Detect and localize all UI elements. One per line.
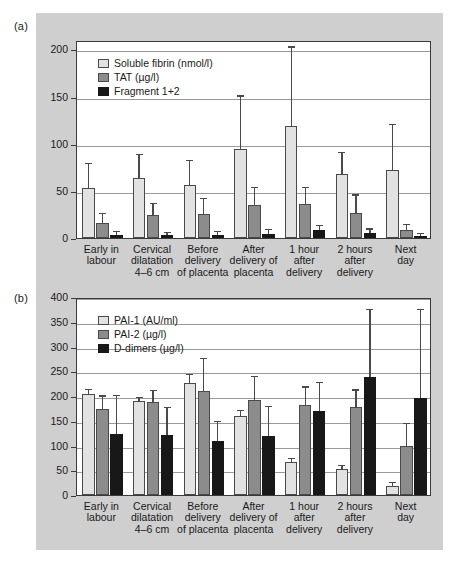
legend-item: TAT (µg/l) (98, 71, 213, 84)
y-axis-tick-label: 100 (30, 139, 68, 149)
bar (198, 391, 211, 495)
bar (184, 185, 197, 238)
legend-a: Soluble fibrin (nmol/l)TAT (µg/l)Fragmen… (98, 57, 213, 99)
bar-group (331, 299, 382, 495)
bar (133, 178, 146, 238)
error-bar-cap (403, 423, 410, 424)
error-bar-cap (99, 213, 106, 214)
error-bar (189, 161, 190, 186)
error-bar-cap (200, 198, 207, 199)
bar (110, 235, 123, 238)
error-bar (138, 155, 139, 178)
error-bar (203, 359, 204, 391)
y-axis-tick-label: 50 (30, 465, 68, 475)
bar (400, 446, 413, 495)
bar (110, 434, 123, 495)
error-bar-cap (136, 154, 143, 155)
error-bar (217, 422, 218, 441)
legend-item: PAI-1 (AU/ml) (98, 314, 184, 327)
bar (212, 235, 225, 238)
legend-label: Soluble fibrin (nmol/l) (114, 58, 213, 69)
bar (336, 469, 349, 495)
error-bar-cap (265, 406, 272, 407)
y-axis-tick (71, 348, 76, 349)
bar (386, 170, 399, 238)
error-bar-cap (352, 389, 359, 390)
bar (96, 223, 109, 238)
error-bar-cap (417, 309, 424, 310)
bar (313, 411, 326, 495)
figure-root: (a) (b) 050100150200 Early inlabourCervi… (0, 0, 469, 569)
bar (350, 213, 363, 238)
error-bar-cap (200, 358, 207, 359)
y-axis-tick-label: 50 (30, 186, 68, 196)
error-bar-cap (113, 395, 120, 396)
y-axis-tick-label: 400 (30, 292, 68, 302)
bar (414, 398, 427, 496)
error-bar (420, 234, 421, 236)
error-bar (88, 164, 89, 188)
error-bar-cap (265, 229, 272, 230)
error-bar (392, 125, 393, 170)
error-bar (305, 188, 306, 204)
error-bar (341, 466, 342, 469)
error-bar (166, 408, 167, 435)
error-bar (268, 230, 269, 234)
error-bar (355, 196, 356, 213)
error-bar (189, 375, 190, 382)
error-bar (88, 390, 89, 393)
bar (82, 188, 95, 238)
legend-swatch (98, 316, 109, 325)
error-bar-cap (417, 233, 424, 234)
bar (364, 377, 377, 495)
error-bar-cap (237, 95, 244, 96)
error-bar (240, 411, 241, 416)
y-axis-tick-label: 300 (30, 342, 68, 352)
bar (262, 234, 275, 238)
error-bar (116, 396, 117, 434)
y-axis-tick (71, 447, 76, 448)
bar (82, 394, 95, 495)
legend-label: TAT (µg/l) (114, 72, 159, 83)
bar-group (381, 299, 432, 495)
bar (234, 149, 247, 238)
error-bar-cap (302, 187, 309, 188)
bar-group (280, 42, 331, 238)
y-axis-tick (71, 496, 76, 497)
bar (212, 441, 225, 495)
error-bar (166, 233, 167, 235)
y-axis-tick-label: 250 (30, 366, 68, 376)
error-bar-cap (251, 187, 258, 188)
error-bar (240, 97, 241, 150)
x-axis-tick-label-line: day (374, 255, 437, 266)
y-axis-tick (71, 397, 76, 398)
error-bar-cap (389, 124, 396, 125)
error-bar-cap (302, 386, 309, 387)
bar (285, 462, 298, 495)
bar-group (229, 42, 280, 238)
error-bar-cap (366, 309, 373, 310)
error-bar-cap (288, 46, 295, 47)
bar (184, 383, 197, 495)
y-axis-tick (71, 50, 76, 51)
error-bar-cap (136, 397, 143, 398)
error-bar-cap (338, 465, 345, 466)
bar (299, 204, 312, 238)
y-axis-tick-label: 200 (30, 391, 68, 401)
x-axis-tick-label: Nextday (374, 244, 437, 267)
error-bar (152, 391, 153, 402)
bar (299, 405, 312, 495)
legend-label: PAI-2 (µg/l) (114, 329, 167, 340)
error-bar (102, 214, 103, 222)
bar (198, 214, 211, 238)
y-axis-tick-label: 100 (30, 441, 68, 451)
error-bar-cap (113, 231, 120, 232)
legend-swatch (98, 59, 109, 68)
legend-label: Fragment 1+2 (114, 86, 180, 97)
error-bar-cap (85, 389, 92, 390)
error-bar (369, 310, 370, 376)
error-bar (319, 226, 320, 231)
legend-b: PAI-1 (AU/ml)PAI-2 (µg/l)D-dimers (µg/l) (98, 314, 184, 356)
y-axis-tick-label: 0 (30, 233, 68, 243)
x-axis-tick-label-line: day (374, 512, 437, 523)
